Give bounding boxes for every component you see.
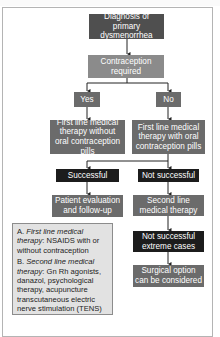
legend-item-a: A. First line medical therapy: NSAIDS wi… <box>17 227 109 255</box>
no-box: No <box>156 92 181 107</box>
legend-a-prefix: A. <box>17 227 26 236</box>
successful-box: Successful <box>56 169 119 182</box>
legend-box: A. First line medical therapy: NSAIDS wi… <box>12 223 113 315</box>
legend-item-b: B. Second line medical therapy: Gn Rh ag… <box>17 257 109 313</box>
legend-b-prefix: B. <box>17 257 26 266</box>
patient-evaluation-box: Patient evaluation and follow-up <box>52 195 123 217</box>
diagnosis-box: Diagnosis of primary dysmenorrhea <box>89 14 164 39</box>
surgical-option-box: Surgical option can be considered <box>133 265 204 287</box>
first-line-without-ocp-box: First line medical therapy without oral … <box>50 120 125 154</box>
not-successful-box: Not successful <box>138 169 199 182</box>
extreme-cases-box: Not successful extreme cases <box>133 231 204 252</box>
contraception-required-box: Contraception required <box>88 55 164 78</box>
second-line-therapy-box: Second line medical therapy <box>133 195 204 216</box>
first-line-with-ocp-box: First line medical therapy with oral con… <box>132 120 205 154</box>
yes-box: Yes <box>74 92 100 107</box>
